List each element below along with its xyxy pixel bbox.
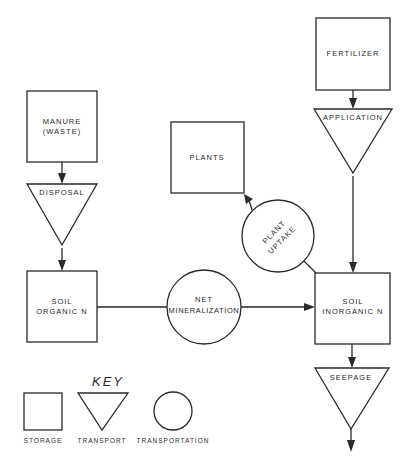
application-label: APPLICATION: [323, 113, 383, 122]
arrow-seepage-out: [347, 429, 355, 452]
legend-title: KEY: [92, 374, 124, 389]
seepage-label: SEEPAGE: [330, 373, 372, 382]
nitrogen-flow-diagram: FERTILIZER APPLICATION MANURE (WASTE) DI…: [0, 0, 413, 466]
arrow-manure-disposal: [58, 162, 66, 184]
arrow-disposal-soil-organic: [58, 248, 66, 271]
manure-label-line2: (WASTE): [43, 127, 81, 136]
legend-transformation-icon: [154, 392, 192, 430]
manure-node: MANURE (WASTE): [27, 91, 97, 162]
line-soil-inorganic-plant-uptake: [304, 261, 316, 273]
arrow-fertilizer-application: [349, 90, 357, 109]
plant-uptake-node: PLANT UPTAKE: [242, 200, 314, 272]
disposal-label: DISPOSAL: [39, 188, 85, 197]
soil-inorganic-label-line1: SOIL: [342, 297, 363, 306]
transformation-circle: [242, 200, 314, 272]
disposal-node: DISPOSAL: [27, 184, 97, 245]
manure-label-line1: MANURE: [43, 117, 82, 126]
legend-storage-label: STORAGE: [24, 437, 63, 444]
soil-inorganic-n-node: SOIL INORGANIC N: [315, 273, 390, 344]
application-node: APPLICATION: [314, 109, 392, 173]
arrow-soil-inorganic-seepage: [348, 344, 356, 368]
soil-organic-label-line1: SOIL: [51, 297, 72, 306]
legend-transport-label: TRANSPORT: [78, 437, 127, 444]
net-mineralization-node: NET MINERALIZATION: [167, 270, 241, 344]
arrow-application-soil-inorganic: [349, 176, 357, 273]
net-mineralization-label-line2: MINERALIZATION: [169, 306, 240, 315]
plants-node: PLANTS: [171, 122, 244, 193]
plants-label: PLANTS: [189, 153, 224, 162]
legend-transformation-label: TRANSPORTATION: [137, 437, 210, 444]
soil-organic-label-line2: ORGANIC N: [36, 307, 88, 316]
legend-transport-icon: [78, 393, 128, 430]
fertilizer-node: FERTILIZER: [316, 18, 390, 90]
arrow-net-mineralization-soil-inorganic: [241, 303, 315, 311]
net-mineralization-label-line1: NET: [195, 295, 213, 304]
legend-storage-icon: [24, 393, 62, 430]
soil-inorganic-label-line2: INORGANIC N: [322, 307, 383, 316]
fertilizer-label: FERTILIZER: [327, 49, 380, 58]
soil-organic-n-node: SOIL ORGANIC N: [27, 271, 97, 342]
seepage-node: SEEPAGE: [315, 368, 389, 429]
legend: KEY STORAGE TRANSPORT TRANSPORTATION: [24, 374, 210, 444]
arrow-plant-uptake-plants: [244, 194, 253, 210]
